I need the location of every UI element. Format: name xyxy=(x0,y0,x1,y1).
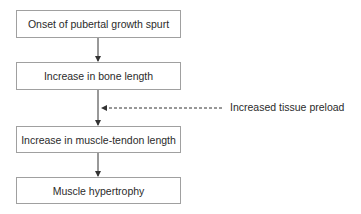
annotation-increased-tissue-preload: Increased tissue preload xyxy=(230,101,344,113)
node-label: Muscle hypertrophy xyxy=(53,185,145,197)
node-label: Increase in muscle-tendon length xyxy=(21,134,176,146)
node-label: Increase in bone length xyxy=(44,70,153,82)
node-muscle-hypertrophy: Muscle hypertrophy xyxy=(16,177,181,204)
node-onset-of-pubertal-growth-spurt: Onset of pubertal growth spurt xyxy=(16,10,181,38)
node-increase-in-bone-length: Increase in bone length xyxy=(16,62,181,90)
node-increase-in-muscle-tendon-length: Increase in muscle-tendon length xyxy=(16,126,181,153)
node-label: Onset of pubertal growth spurt xyxy=(28,18,169,30)
